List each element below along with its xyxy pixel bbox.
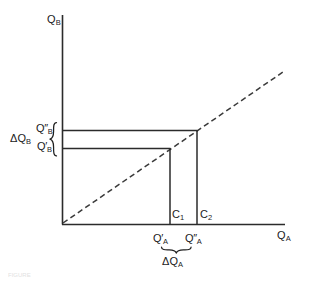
delta-qb-label: ΔQB <box>10 133 31 144</box>
x-axis-label: QA <box>277 230 291 241</box>
y-axis-label: QB <box>47 14 61 25</box>
delta-qa-brace <box>162 247 192 253</box>
figure-root: QB QA ΔQB Q″B Q′B C1 C2 Q′A Q″A ΔQA FIGU… <box>0 0 314 281</box>
figure-caption-clipped: FIGURE <box>8 272 148 277</box>
point-label-c1: C1 <box>172 209 184 220</box>
q-double-prime-a-label: Q″A <box>185 233 202 244</box>
q-prime-a-label: Q′A <box>153 233 168 244</box>
q-prime-b-label: Q′B <box>37 141 52 152</box>
q-double-prime-b-label: Q″B <box>36 123 53 134</box>
delta-qa-label: ΔQA <box>162 256 183 267</box>
point-label-c2: C2 <box>200 209 212 220</box>
forty-five-degree-dashed-line <box>63 72 283 223</box>
